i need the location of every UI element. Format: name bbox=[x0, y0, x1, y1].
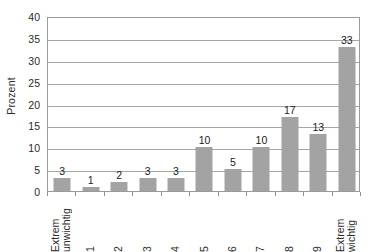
y-tick-label: 5 bbox=[34, 164, 40, 176]
x-category-label-line: 9 bbox=[312, 197, 323, 252]
bar-slot: 3 bbox=[162, 18, 190, 191]
x-tick bbox=[189, 192, 190, 196]
x-category-label-line: 5 bbox=[198, 197, 209, 252]
bar bbox=[168, 178, 185, 191]
bar bbox=[338, 47, 355, 191]
x-tick bbox=[275, 192, 276, 196]
x-category-label: 3 bbox=[141, 197, 152, 252]
x-category-label-line: 7 bbox=[255, 197, 266, 252]
x-category-label-line: 1 bbox=[84, 197, 95, 252]
bar-value-label: 1 bbox=[88, 174, 94, 186]
bar-value-label: 10 bbox=[256, 134, 268, 146]
bar bbox=[224, 169, 241, 191]
bar-slot: 10 bbox=[190, 18, 218, 191]
y-tick-label: 30 bbox=[28, 55, 40, 67]
x-tick bbox=[246, 192, 247, 196]
x-category-label: 8 bbox=[283, 197, 294, 252]
x-tick bbox=[303, 192, 304, 196]
bar-value-label: 13 bbox=[312, 121, 324, 133]
y-tick-label: 35 bbox=[28, 33, 40, 45]
bar-slot: 3 bbox=[48, 18, 76, 191]
bar-value-label: 10 bbox=[199, 134, 211, 146]
x-tick bbox=[161, 192, 162, 196]
x-category-label: 2 bbox=[113, 197, 124, 252]
x-category-label: 4 bbox=[170, 197, 181, 252]
bar bbox=[111, 182, 128, 191]
y-axis-title: Prozent bbox=[0, 0, 22, 192]
bar-slot: 5 bbox=[219, 18, 247, 191]
x-tick bbox=[360, 192, 361, 196]
y-axis-tick-labels: 0510152025303540 bbox=[20, 17, 44, 192]
x-category-label-line: unwichtig bbox=[61, 197, 72, 252]
bar bbox=[253, 147, 270, 191]
x-category-label-line: 6 bbox=[226, 197, 237, 252]
bar bbox=[82, 187, 99, 191]
plot-area: 3123310510171333 bbox=[47, 17, 360, 192]
y-tick-label: 20 bbox=[28, 99, 40, 111]
x-category-label: 1 bbox=[84, 197, 95, 252]
bar-value-label: 5 bbox=[230, 156, 236, 168]
y-tick-label: 10 bbox=[28, 142, 40, 154]
bar bbox=[139, 178, 156, 191]
bar-value-label: 3 bbox=[145, 165, 151, 177]
y-tick-label: 40 bbox=[28, 11, 40, 23]
x-axis-category-labels: Extremunwichtig123456789Extremwichtig bbox=[47, 197, 360, 252]
bar-value-label: 17 bbox=[284, 104, 296, 116]
x-tick bbox=[104, 192, 105, 196]
x-category-label-line: 2 bbox=[113, 197, 124, 252]
x-category-label: 6 bbox=[226, 197, 237, 252]
x-category-label-line: 3 bbox=[141, 197, 152, 252]
bar-chart: Prozent 0510152025303540 312331051017133… bbox=[0, 0, 380, 252]
bar-slot: 1 bbox=[76, 18, 104, 191]
bar bbox=[310, 134, 327, 191]
x-category-label-line: 8 bbox=[283, 197, 294, 252]
y-tick-label: 0 bbox=[34, 186, 40, 198]
x-tick bbox=[218, 192, 219, 196]
bar-slot: 13 bbox=[304, 18, 332, 191]
bar bbox=[54, 178, 71, 191]
x-tick bbox=[47, 192, 48, 196]
bar-slot: 33 bbox=[333, 18, 361, 191]
x-tick bbox=[75, 192, 76, 196]
x-category-label-line: wichtig bbox=[346, 197, 357, 252]
x-category-label: 5 bbox=[198, 197, 209, 252]
bar-slot: 3 bbox=[133, 18, 161, 191]
bar-slot: 2 bbox=[105, 18, 133, 191]
x-category-label: Extremwichtig bbox=[335, 197, 357, 252]
x-category-label: Extremunwichtig bbox=[50, 197, 72, 252]
x-tick bbox=[332, 192, 333, 196]
bar-slot: 10 bbox=[247, 18, 275, 191]
bar-value-label: 3 bbox=[59, 165, 65, 177]
x-tick bbox=[132, 192, 133, 196]
bars-layer: 3123310510171333 bbox=[48, 18, 359, 191]
bar bbox=[281, 117, 298, 191]
bar-value-label: 2 bbox=[116, 169, 122, 181]
x-category-label-line: 4 bbox=[170, 197, 181, 252]
y-tick-label: 15 bbox=[28, 120, 40, 132]
y-axis-title-label: Prozent bbox=[5, 77, 17, 115]
bar-value-label: 3 bbox=[173, 165, 179, 177]
x-category-label: 7 bbox=[255, 197, 266, 252]
bar bbox=[196, 147, 213, 191]
x-category-label: 9 bbox=[312, 197, 323, 252]
bar-value-label: 33 bbox=[341, 34, 353, 46]
bar-slot: 17 bbox=[276, 18, 304, 191]
y-tick-label: 25 bbox=[28, 77, 40, 89]
